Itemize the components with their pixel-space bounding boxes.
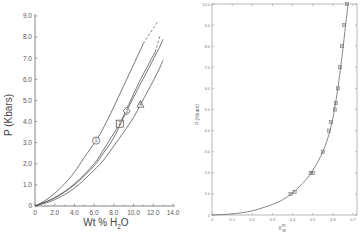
x-tick-label: 0.7: [350, 217, 356, 222]
y-tick-label: 6.0: [23, 76, 32, 83]
y-tick-label: 7.0: [23, 55, 32, 62]
x-tick-label: 0.6: [330, 217, 336, 222]
y-tick-label: 2.0: [23, 160, 32, 167]
y-tick-label: 9.0: [204, 23, 210, 28]
figure: 01.02.03.04.05.06.07.08.09.002.04.06.08.…: [0, 0, 361, 239]
y-tick-label: 1.0: [23, 181, 32, 188]
x-tick-label: 6.0: [90, 209, 99, 216]
y-axis-label: P (Kbars): [3, 94, 14, 136]
data-point: [321, 150, 324, 153]
left-chart: 01.02.03.04.05.06.07.08.09.002.04.06.08.…: [3, 12, 180, 229]
x-axis-label: Wt % H2O: [83, 217, 129, 230]
curve-2: [35, 52, 155, 206]
y-tick-label: 8.0: [204, 44, 210, 49]
y-tick-label: 2.0: [204, 170, 210, 175]
y-tick-label: 10.0: [202, 2, 211, 7]
x-tick-label: 14.0: [167, 209, 180, 216]
y-tick-label: 5.0: [23, 97, 32, 104]
curve-1: [35, 43, 143, 206]
x-tick-label: 4.0: [70, 209, 79, 216]
right-chart: 01.02.03.04.05.06.07.08.09.010.000.10.20…: [194, 2, 357, 234]
plot-frame: [212, 4, 357, 215]
y-tick-label: 3.0: [23, 139, 32, 146]
x-tick-label: 0: [211, 217, 214, 222]
curve-3: [35, 39, 163, 206]
y-tick-label: 1.0: [204, 191, 210, 196]
data-point: [342, 24, 345, 27]
marker-triangle: 4: [137, 101, 144, 108]
y-tick-label: 9.0: [23, 12, 32, 19]
y-tick-label: 4.0: [23, 118, 32, 125]
data-point: [338, 66, 341, 69]
y-tick-label: 4.0: [204, 128, 210, 133]
fit-curve: [212, 4, 348, 215]
curve-extension-1: [143, 22, 157, 43]
x-tick-label: 0.2: [250, 217, 256, 222]
y-tick-label: 0: [28, 202, 32, 209]
y-tick-label: 5.0: [204, 107, 210, 112]
x-axis-label: Xmw: [278, 223, 286, 233]
curve-extension-2: [155, 35, 160, 52]
y-tick-label: 3.0: [204, 149, 210, 154]
x-tick-label: 0: [33, 209, 37, 216]
y-tick-label: 8.0: [23, 33, 32, 40]
x-tick-label: 8.0: [109, 209, 118, 216]
y-tick-label: 7.0: [204, 65, 210, 70]
y-axis-label: P (Kbars): [194, 104, 200, 125]
x-tick-label: 12.0: [147, 209, 160, 216]
y-tick-label: 6.0: [204, 86, 210, 91]
x-tick-label: 0.1: [229, 217, 235, 222]
x-tick-label: 0.3: [270, 217, 276, 222]
x-tick-label: 10.0: [127, 209, 140, 216]
x-tick-label: 2.0: [50, 209, 59, 216]
marker-circle: 1: [93, 137, 100, 144]
x-tick-label: 0.5: [310, 217, 316, 222]
curve-4: [35, 60, 163, 206]
x-tick-label: 0.4: [290, 217, 296, 222]
